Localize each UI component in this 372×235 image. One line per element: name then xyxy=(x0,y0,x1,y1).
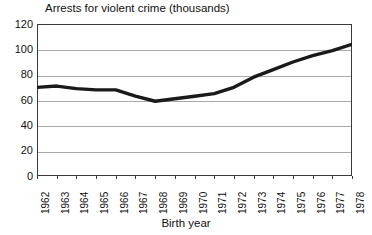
chart-title: Arrests for violent crime (thousands) xyxy=(45,1,230,15)
x-tick-1974 xyxy=(273,176,274,179)
x-tick-label-1971: 1971 xyxy=(218,192,228,214)
violent-crime-arrests-line-chart: Arrests for violent crime (thousands) 02… xyxy=(0,0,372,235)
y-axis-tick-labels: 020406080100120 xyxy=(0,24,33,176)
x-tick-label-1977: 1977 xyxy=(336,192,346,214)
y-tick-label-60: 60 xyxy=(3,95,33,106)
x-tick-1969 xyxy=(175,176,176,179)
x-tick-1965 xyxy=(96,176,97,179)
x-tick-1978 xyxy=(352,176,353,179)
x-tick-1970 xyxy=(195,176,196,179)
x-tick-1962 xyxy=(37,176,38,179)
x-tick-label-1978: 1978 xyxy=(356,192,366,214)
x-tick-label-1969: 1969 xyxy=(179,192,189,214)
x-tick-1966 xyxy=(116,176,117,179)
x-tick-label-1973: 1973 xyxy=(258,192,268,214)
x-tick-label-1966: 1966 xyxy=(120,192,130,214)
y-tick-label-120: 120 xyxy=(3,19,33,30)
x-tick-label-1963: 1963 xyxy=(61,192,71,214)
x-tick-1973 xyxy=(254,176,255,179)
x-tick-label-1964: 1964 xyxy=(80,192,90,214)
y-tick-label-40: 40 xyxy=(3,120,33,131)
x-tick-1972 xyxy=(234,176,235,179)
x-tick-label-1976: 1976 xyxy=(317,192,327,214)
y-tick-label-0: 0 xyxy=(3,171,33,182)
x-tick-label-1974: 1974 xyxy=(277,192,287,214)
x-tick-1975 xyxy=(293,176,294,179)
x-tick-1977 xyxy=(332,176,333,179)
x-tick-label-1965: 1965 xyxy=(100,192,110,214)
x-tick-label-1975: 1975 xyxy=(297,192,307,214)
data-series-line xyxy=(37,24,352,176)
x-tick-1964 xyxy=(76,176,77,179)
x-tick-label-1972: 1972 xyxy=(238,192,248,214)
x-tick-1968 xyxy=(155,176,156,179)
y-tick-label-20: 20 xyxy=(3,145,33,156)
y-tick-label-80: 80 xyxy=(3,69,33,80)
x-tick-label-1962: 1962 xyxy=(41,192,51,214)
x-tick-label-1968: 1968 xyxy=(159,192,169,214)
x-tick-1967 xyxy=(135,176,136,179)
x-tick-label-1967: 1967 xyxy=(139,192,149,214)
x-axis-tick-labels: 1962196319641965196619671968196919701971… xyxy=(37,180,352,216)
x-tick-1976 xyxy=(313,176,314,179)
x-axis-title: Birth year xyxy=(0,217,372,230)
x-tick-label-1970: 1970 xyxy=(199,192,209,214)
x-tick-1971 xyxy=(214,176,215,179)
x-tick-1963 xyxy=(57,176,58,179)
y-tick-label-100: 100 xyxy=(3,44,33,55)
